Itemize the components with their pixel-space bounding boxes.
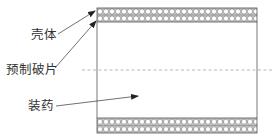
shell-label: 壳体 [31,28,57,42]
fragments-arrow-icon [55,21,96,68]
shell-arrow-icon [58,11,95,34]
bottom-fragment-band [97,118,257,133]
top-fragment-band [97,8,257,22]
charge-label: 装药 [28,99,54,113]
fragments-label: 预制破片 [6,63,58,77]
